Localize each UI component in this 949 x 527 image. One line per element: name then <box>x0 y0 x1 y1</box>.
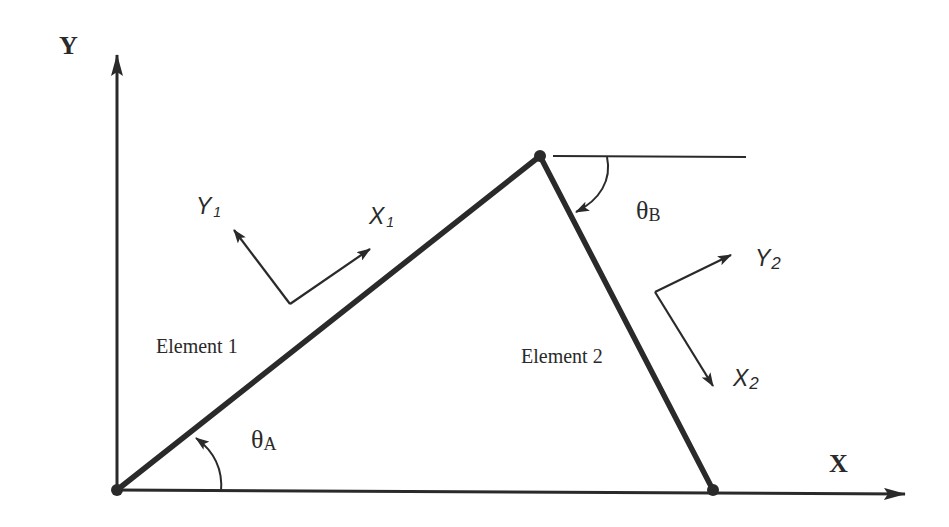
local-y2-letter: Y <box>755 245 772 271</box>
node-right-support <box>707 484 719 496</box>
local-x2-arrow <box>655 292 713 386</box>
local-x1-subscript: 1 <box>386 214 394 230</box>
local-x1-letter: X <box>368 203 386 229</box>
local-x2-subscript: 2 <box>748 374 759 393</box>
global-x-label: X <box>829 449 848 478</box>
local-y1-label: Y1 <box>196 193 221 220</box>
theta-a-label: θA <box>251 425 276 454</box>
theta-b-subscript: B <box>648 205 660 225</box>
node-apex <box>534 150 546 162</box>
horizontal-reference-line <box>553 156 746 157</box>
element-2-bar <box>540 156 713 490</box>
frame-diagram: Y X Y1 X1 Y2 X2 Element 1 Element 2 θA θ… <box>0 0 949 527</box>
theta-b-label: θB <box>636 196 660 225</box>
local-y1-arrow <box>234 230 290 304</box>
theta-a-symbol: θ <box>251 425 263 454</box>
local-axes-element-2 <box>655 255 731 386</box>
local-y1-letter: Y <box>196 193 213 219</box>
local-axes-element-1 <box>234 230 370 304</box>
local-x1-arrow <box>290 249 370 304</box>
element-2-label: Element 2 <box>521 345 603 367</box>
theta-a-arc <box>196 438 221 492</box>
local-x2-label: X2 <box>732 365 759 393</box>
local-x2-letter: X <box>732 365 750 391</box>
element-1-label: Element 1 <box>156 335 238 357</box>
element-1-bar <box>117 156 540 490</box>
global-x-axis <box>117 490 905 494</box>
theta-b-symbol: θ <box>636 196 648 225</box>
local-y2-subscript: 2 <box>770 254 781 273</box>
local-y2-label: Y2 <box>755 245 781 273</box>
local-x1-label: X1 <box>368 203 394 230</box>
theta-a-subscript: A <box>263 434 276 454</box>
theta-b-arc <box>576 157 608 212</box>
node-origin <box>111 484 123 496</box>
local-y1-subscript: 1 <box>213 204 221 220</box>
global-y-label: Y <box>59 31 78 60</box>
local-y2-arrow <box>655 255 731 292</box>
